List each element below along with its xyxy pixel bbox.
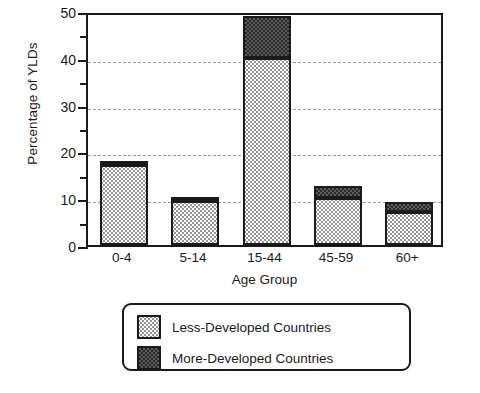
bar-segment-more-developed-45-59 xyxy=(314,186,362,199)
bar-segment-more-developed-60+ xyxy=(385,202,433,212)
bar-60+ xyxy=(385,202,433,245)
bar-45-59 xyxy=(314,186,362,245)
bar-0-4 xyxy=(100,161,148,245)
bar-segment-less-developed-5-14 xyxy=(171,201,219,245)
less-developed-swatch xyxy=(137,315,161,339)
y-tick-label-40: 40 xyxy=(16,53,76,67)
legend-label-1: Less-Developed Countries xyxy=(172,320,331,335)
y-tick-label-10: 10 xyxy=(16,193,76,207)
bar-5-14 xyxy=(171,197,219,245)
bar-segment-less-developed-0-4 xyxy=(100,165,148,245)
y-tick-label-30: 30 xyxy=(16,100,76,114)
plot-area xyxy=(86,13,443,247)
y-tick-major-0 xyxy=(78,247,88,249)
bar-segment-less-developed-15-44 xyxy=(243,58,291,245)
bar-segment-more-developed-15-44 xyxy=(243,16,291,58)
legend-item-2: More-Developed Countries xyxy=(137,346,333,370)
x-axis-title: Age Group xyxy=(86,272,443,287)
legend-label-2: More-Developed Countries xyxy=(172,351,333,366)
more-developed-swatch xyxy=(137,346,161,370)
bar-segment-less-developed-45-59 xyxy=(314,198,362,245)
chart-figure: Percentage of YLDs 01020304050 0-45-1415… xyxy=(0,0,480,393)
bar-15-44 xyxy=(243,16,291,245)
legend-item-1: Less-Developed Countries xyxy=(137,315,331,339)
y-tick-label-50: 50 xyxy=(16,6,76,20)
y-tick-label-0: 0 xyxy=(16,240,76,254)
chart-legend: Less-Developed CountriesMore-Developed C… xyxy=(122,303,411,371)
bar-segment-more-developed-5-14 xyxy=(171,197,219,202)
y-tick-label-20: 20 xyxy=(16,146,76,160)
bar-segment-more-developed-0-4 xyxy=(100,161,148,166)
x-tick-label-60+: 60+ xyxy=(362,251,452,265)
bar-segment-less-developed-60+ xyxy=(385,212,433,245)
